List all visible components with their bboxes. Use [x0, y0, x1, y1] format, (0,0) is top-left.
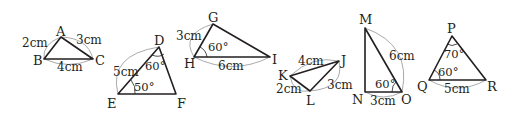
side-hi-length: 6cm: [218, 59, 244, 73]
vertex-r-label: R: [487, 79, 498, 94]
vertex-n-label: N: [352, 92, 363, 107]
triangles-figure: A B C 2cm 3cm 4cm D E F 5cm 60° 50° G H …: [0, 0, 518, 120]
vertex-o-label: O: [401, 92, 412, 107]
triangle-jkl: J K L 4cm 2cm 3cm: [276, 53, 353, 108]
angle-arc-h: [200, 47, 207, 57]
vertex-j-label: J: [339, 53, 346, 68]
triangle-def: D E F 5cm 60° 50°: [107, 33, 186, 111]
triangle-ghi: G H I 3cm 6cm 60°: [176, 10, 277, 73]
angle-h-value: 60°: [208, 40, 228, 54]
triangle-pqr: P Q R 70° 60° 5cm: [417, 21, 498, 96]
vertex-l-label: L: [306, 93, 315, 108]
vertex-a-label: A: [55, 24, 66, 39]
vertex-b-label: B: [33, 53, 43, 68]
angle-q-value: 60°: [438, 65, 458, 79]
vertex-e-label: E: [107, 96, 117, 111]
side-ab-length: 2cm: [22, 36, 48, 50]
vertex-i-label: I: [272, 52, 277, 67]
side-qr-length: 5cm: [444, 82, 470, 96]
angle-p-value: 70°: [444, 47, 464, 61]
vertex-q-label: Q: [417, 79, 428, 94]
side-kl-length: 2cm: [276, 82, 302, 96]
vertex-g-label: G: [208, 10, 218, 25]
side-no-length: 3cm: [370, 94, 396, 108]
side-mo-length: 6cm: [389, 49, 415, 63]
side-bc-length: 4cm: [57, 60, 83, 74]
side-de-length: 5cm: [113, 65, 139, 79]
triangle-abc: A B C 2cm 3cm 4cm: [22, 24, 105, 74]
side-jl-length: 3cm: [327, 78, 353, 92]
vertex-p-label: P: [447, 21, 456, 36]
side-kj-length: 4cm: [298, 54, 324, 68]
angle-e-value: 50°: [134, 80, 154, 94]
vertex-c-label: C: [95, 53, 105, 68]
vertex-m-label: M: [359, 12, 372, 27]
angle-o-value: 60°: [375, 77, 395, 91]
vertex-d-label: D: [154, 33, 164, 48]
vertex-f-label: F: [177, 96, 186, 111]
angle-d-value: 60°: [145, 59, 165, 73]
side-gh-length: 3cm: [176, 29, 202, 43]
vertex-h-label: H: [184, 56, 195, 71]
vertex-k-label: K: [278, 68, 288, 83]
side-ac-length: 3cm: [76, 33, 102, 47]
triangle-mno: M N O 6cm 3cm 60°: [352, 12, 415, 108]
